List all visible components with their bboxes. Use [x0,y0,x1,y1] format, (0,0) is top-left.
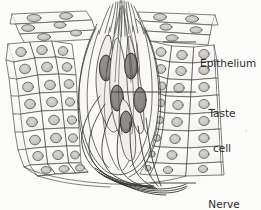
label-nerve-fibers-line-1: Nerve [200,199,248,210]
scan-speck [188,11,190,13]
label-taste-cell: Taste cell [200,85,244,166]
label-nerve-fibers: Nerve fibers [200,176,248,210]
surface-cells-left [10,11,97,43]
label-taste-cell-line-1: Taste [200,108,244,120]
label-epithelium: Epithelium [200,35,256,81]
label-taste-cell-line-2: cell [200,143,244,155]
label-epithelium-line-1: Epithelium [200,58,256,70]
scan-speck [245,130,247,132]
scan-speck [18,118,20,120]
scan-speck [250,58,252,60]
scan-speck [193,13,195,15]
